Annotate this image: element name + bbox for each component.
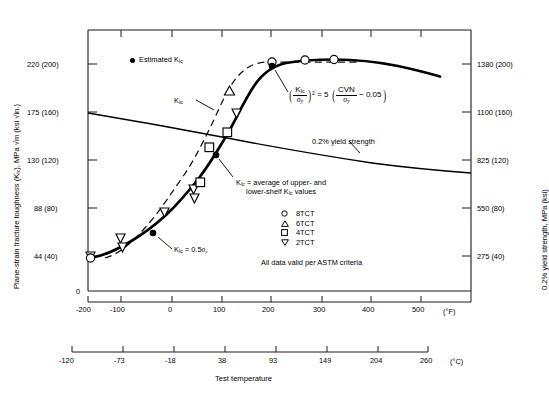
astm-criteria-note: All data valid per ASTM criteria	[261, 258, 362, 267]
legend-item-6tct: 6TCT	[281, 219, 314, 229]
ytick-label-right-1380: 1380 (200)	[477, 60, 513, 69]
ytick-label-left-88: 88 (80)	[34, 204, 57, 213]
leader-kic-curve	[196, 100, 214, 110]
unit-celsius: (°C)	[450, 357, 463, 366]
xtick-label-f-100: 100	[213, 305, 225, 314]
xtick-label-c-38: 38	[218, 356, 226, 365]
inverted-triangle-icon	[281, 239, 292, 246]
data-point-8tct	[86, 254, 94, 262]
kic-average-note: KIc = average of upper- and lower-shelf …	[236, 178, 411, 197]
kic-half-sigma-label: KIc = 0.5σy	[174, 245, 207, 255]
xtick-label-c--73: -73	[114, 356, 125, 365]
ytick-label-left-175: 175 (160)	[27, 108, 59, 117]
yield-strength-label: 0.2% yield strength	[312, 137, 375, 146]
legend-label: 8TCT	[296, 209, 314, 218]
estimated-kic-key: Estimated KIc	[130, 55, 183, 64]
legend-label: 2TCT	[296, 238, 314, 247]
data-point-4tct	[223, 128, 232, 137]
circle-icon	[281, 210, 292, 217]
data-point-4tct	[205, 143, 214, 152]
xtick-label-c-260: 260	[420, 356, 432, 365]
data-point-6tct	[225, 86, 235, 95]
ytick-label-right-275: 275 (40)	[477, 252, 505, 261]
unit-fahrenheit: (°F)	[443, 307, 455, 316]
x-axis-title: Test temperature	[215, 374, 272, 383]
data-point-8tct	[301, 56, 309, 64]
kic-transition-curve	[90, 60, 440, 259]
right-tick-marks	[462, 64, 471, 256]
legend-item-2tct: 2TCT	[281, 238, 314, 248]
ytick-label-right-1100: 1100 (160)	[477, 108, 512, 117]
estimated-kic-point	[150, 230, 157, 237]
xtick-label-f--100: -100	[110, 305, 125, 314]
data-point-4tct	[196, 178, 205, 187]
data-point-8tct	[330, 55, 338, 63]
estimated-kic-point	[213, 152, 220, 159]
data-point-2tct	[116, 234, 125, 243]
ytick-label-right-550: 550 (80)	[477, 204, 505, 213]
ytick-label-left-0: 0	[76, 287, 80, 296]
leader-kic-average	[219, 159, 233, 177]
xtick-label-c--18: -18	[165, 356, 176, 365]
xtick-label-c-149: 149	[319, 356, 331, 365]
xtick-label-f-500: 500	[412, 305, 424, 314]
legend-item-4tct: 4TCT	[281, 228, 314, 238]
triangle-icon	[281, 220, 292, 227]
ytick-label-left-130: 130 (120)	[27, 156, 59, 165]
top-tick-marks	[121, 30, 421, 37]
xtick-label-c-93: 93	[269, 356, 277, 365]
xtick-label-f--200: -200	[76, 305, 91, 314]
right-axis-title: 0.2% yield strength, MPa (ksi)	[540, 189, 549, 290]
ytick-label-left-220: 220 (200)	[27, 60, 59, 69]
ytick-label-right-825: 825 (120)	[477, 156, 509, 165]
xtick-label-c-204: 204	[370, 356, 382, 365]
leader-kic-half-sigma	[158, 237, 172, 249]
legend-label: 4TCT	[296, 228, 314, 237]
legend-label: 6TCT	[296, 219, 314, 228]
cvn-equation: (KIcσy)2 = 5 (CVNσy − 0.05)	[288, 86, 387, 104]
xtick-label-f-0: 0	[168, 305, 172, 314]
xtick-label-c--120: -120	[59, 356, 74, 365]
filled-circle-icon	[130, 58, 135, 63]
celsius-axis	[72, 346, 428, 352]
kic-curve-label: KIc	[174, 96, 183, 105]
xtick-label-f-300: 300	[313, 305, 325, 314]
yield-strength-curve	[88, 113, 471, 173]
leader-cvn-equation	[275, 70, 288, 92]
data-point-2tct	[190, 194, 199, 203]
fahrenheit-axis	[88, 291, 471, 302]
left-tick-marks	[88, 64, 97, 256]
estimated-kic-point	[269, 63, 276, 70]
xtick-label-f-200: 200	[262, 305, 274, 314]
legend: 8TCT 6TCT 4TCT 2TCT	[281, 209, 314, 247]
xtick-label-f-400: 400	[362, 305, 374, 314]
left-axis-title: Plane-strain fracture toughness (KIc), M…	[12, 104, 21, 289]
square-icon	[281, 229, 292, 236]
ytick-label-left-44: 44 (40)	[34, 252, 57, 261]
fahrenheit-tick-marks	[88, 291, 471, 302]
celsius-tick-marks	[72, 346, 428, 352]
legend-item-8tct: 8TCT	[281, 209, 314, 219]
